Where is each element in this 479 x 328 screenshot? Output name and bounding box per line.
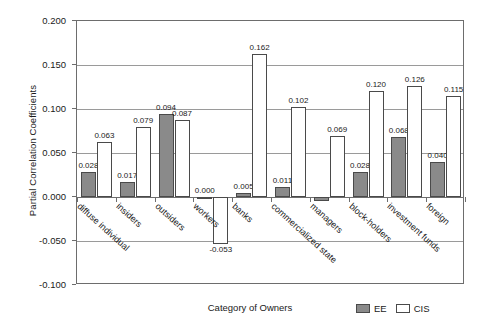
bar-cis-outsiders <box>175 120 190 197</box>
gridline <box>77 65 463 66</box>
y-tick-label: 0.000 <box>0 191 66 202</box>
bar-ee-workers <box>197 197 212 199</box>
bar-value-label: 0.162 <box>243 44 277 52</box>
legend-swatch-ee <box>356 304 370 313</box>
bar-ee-diffuse-individual <box>81 172 96 197</box>
x-tick-mark <box>387 197 388 202</box>
gridline <box>77 197 463 198</box>
x-tick-mark <box>426 197 427 202</box>
x-tick-mark <box>193 197 194 202</box>
x-axis-title: Category of Owners <box>150 302 350 313</box>
bar-value-label: 0.126 <box>398 76 432 84</box>
legend-entry-ee: EE <box>356 303 387 314</box>
bar-value-label: 0.115 <box>437 86 471 94</box>
bar-value-label: 0.087 <box>165 110 199 118</box>
bar-cis-investment-funds <box>407 86 422 197</box>
bar-ee-investment-funds <box>391 137 406 197</box>
x-tick-mark <box>77 197 78 202</box>
bar-value-label: -0.053 <box>204 246 238 254</box>
legend-label: CIS <box>414 303 430 314</box>
bar-cis-banks <box>252 54 267 197</box>
bar-value-label: 0.000 <box>188 187 222 195</box>
legend-swatch-cis <box>396 304 410 313</box>
bar-cis-foreign <box>446 96 461 197</box>
x-tick-mark <box>310 197 311 202</box>
x-tick-mark <box>465 197 466 202</box>
y-tick-label: 0.100 <box>0 103 66 114</box>
bar-ee-block-holders <box>353 172 368 197</box>
plot-area: 0.0280.0630.0170.0790.0940.0870.000-0.05… <box>76 20 464 284</box>
y-tick-mark <box>72 152 76 153</box>
bar-value-label: 0.063 <box>87 132 121 140</box>
x-tick-mark <box>116 197 117 202</box>
bar-value-label: 0.102 <box>281 97 315 105</box>
bar-ee-outsiders <box>159 114 174 197</box>
y-tick-mark <box>72 64 76 65</box>
bar-cis-diffuse-individual <box>97 142 112 197</box>
bar-cis-commercialized-state <box>291 107 306 197</box>
y-tick-mark <box>72 240 76 241</box>
bar-cis-block-holders <box>369 91 384 197</box>
legend-label: EE <box>374 303 387 314</box>
y-tick-label: -0.100 <box>0 279 66 290</box>
bar-cis-insiders <box>136 127 151 197</box>
x-tick-mark <box>271 197 272 202</box>
gridline <box>77 241 463 242</box>
partial-correlation-bar-chart: Partial Correlation Coefficients 0.0280.… <box>0 0 479 328</box>
bar-value-label: 0.079 <box>126 117 160 125</box>
bar-ee-banks <box>236 193 251 197</box>
x-tick-mark <box>155 197 156 202</box>
y-tick-label: 0.200 <box>0 15 66 26</box>
bar-ee-managers <box>314 197 329 201</box>
bar-value-label: 0.120 <box>359 81 393 89</box>
y-tick-label: 0.050 <box>0 147 66 158</box>
gridline <box>77 109 463 110</box>
x-tick-mark <box>349 197 350 202</box>
bar-ee-foreign <box>430 162 445 197</box>
y-tick-mark <box>72 108 76 109</box>
chart-legend: EECIS <box>356 303 430 314</box>
y-tick-label: -0.050 <box>0 235 66 246</box>
legend-entry-cis: CIS <box>396 303 430 314</box>
x-tick-mark <box>232 197 233 202</box>
y-tick-label: 0.150 <box>0 59 66 70</box>
bar-ee-insiders <box>120 182 135 197</box>
y-tick-mark <box>72 284 76 285</box>
bar-value-label: 0.069 <box>320 126 354 134</box>
bar-ee-commercialized-state <box>275 187 290 197</box>
y-tick-mark <box>72 20 76 21</box>
y-tick-mark <box>72 196 76 197</box>
